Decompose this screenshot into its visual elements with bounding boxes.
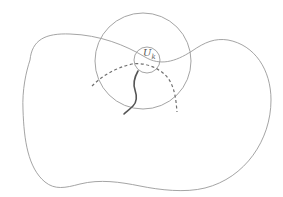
- large-circle: [95, 13, 191, 109]
- small-circle-label: Uk: [143, 48, 156, 61]
- thick-curve: [124, 71, 138, 114]
- label-subscript: k: [151, 53, 155, 61]
- diagram-canvas: [0, 0, 283, 197]
